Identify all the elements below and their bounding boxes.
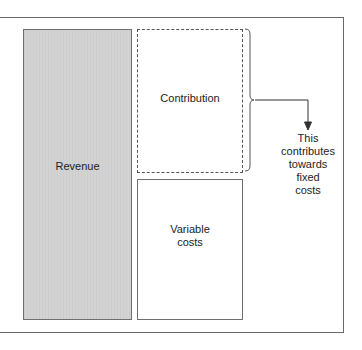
annotation-line-5: costs <box>278 184 338 197</box>
annotation-line-3: towards <box>278 158 338 171</box>
fixed-costs-annotation: This contributes towards fixed costs <box>278 132 338 197</box>
annotation-line-2: contributes <box>278 145 338 158</box>
annotation-line-1: This <box>278 132 338 145</box>
annotation-line-4: fixed <box>278 171 338 184</box>
arrow-icon <box>255 100 312 130</box>
curly-brace-icon <box>245 29 254 171</box>
